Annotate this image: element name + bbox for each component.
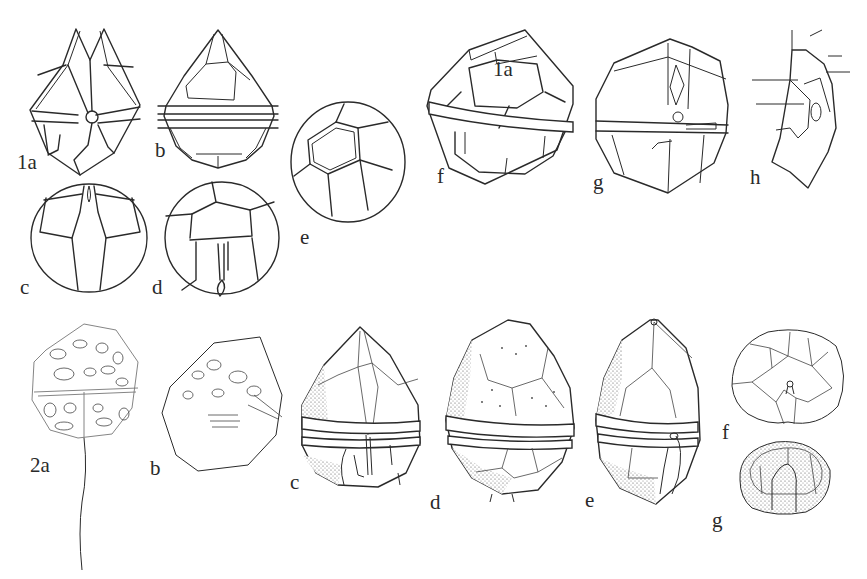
figure-2c-label: c [290, 472, 299, 493]
theca-drawing [736, 440, 834, 518]
theca-drawing [158, 335, 283, 475]
figure-1b-label: b [155, 140, 166, 161]
figure-2e-label: e [585, 490, 594, 511]
theca-drawing [162, 180, 282, 298]
figure-1d-label: d [152, 277, 163, 298]
figure-2a-ventral-with-flagellum [28, 322, 143, 572]
figure-2b-lateral-view [158, 335, 283, 475]
figure-1d-antapical-view [162, 180, 282, 298]
figure-1f-dorsal-view [425, 28, 575, 188]
figure-1a-ventral-view [18, 25, 148, 180]
figure-2d-label: d [430, 492, 441, 513]
figure-plate: 1a b c d [0, 0, 867, 579]
theca-drawing [425, 28, 575, 188]
figure-1a-label: 1a [17, 152, 37, 173]
figure-1e-label: e [300, 227, 309, 248]
figure-2g-label: g [712, 510, 723, 531]
figure-2e-lateral-view [592, 318, 702, 508]
theca-drawing [156, 28, 281, 173]
theca-drawing [728, 326, 846, 428]
theca-drawing [28, 322, 143, 572]
figure-2c-ventral-view [298, 325, 424, 495]
figure-2a-label: 2a [30, 455, 50, 476]
figure-2f-label: f [722, 422, 729, 443]
theca-drawing [442, 318, 582, 503]
theca-drawing [592, 35, 737, 195]
theca-drawing [18, 25, 148, 180]
theca-drawing [28, 182, 150, 294]
figure-1f-inner-plate-label: 1a [493, 59, 513, 80]
figure-1c-apical-view [28, 182, 150, 294]
figure-1h-label: h [750, 167, 761, 188]
figure-1f-label: f [437, 166, 444, 187]
figure-1h-sulcal-detail [750, 28, 855, 193]
figure-2g-antapical-view [736, 440, 834, 518]
figure-2f-apical-view [728, 326, 846, 428]
figure-1c-label: c [20, 277, 29, 298]
theca-drawing [750, 28, 855, 193]
figure-1g-ventral-view [592, 35, 737, 195]
theca-drawing [288, 100, 408, 224]
theca-drawing [592, 318, 702, 508]
figure-1g-label: g [593, 172, 604, 193]
figure-1e-oblique-view [288, 100, 408, 224]
figure-2d-dorsal-view [442, 318, 582, 503]
figure-1b-dorsal-view [156, 28, 281, 173]
figure-2b-label: b [150, 458, 161, 479]
theca-drawing [298, 325, 424, 495]
